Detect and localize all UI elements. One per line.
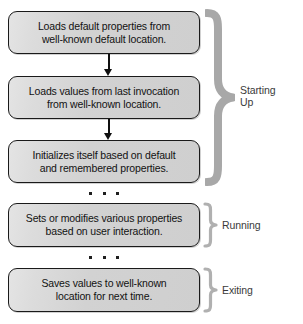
ellipsis-dot <box>103 256 106 259</box>
ellipsis-icon <box>89 254 119 260</box>
arrow-head <box>104 133 112 140</box>
arrow-down-icon <box>103 119 114 140</box>
brace-starting-up-icon <box>205 9 235 186</box>
phase-label-running: Running <box>222 219 292 231</box>
ellipsis-dot <box>103 192 106 195</box>
diagram-canvas: Loads default properties from well-known… <box>0 0 303 324</box>
brace-running-icon <box>203 201 219 249</box>
process-box-label: Initializes itself based on default and … <box>9 149 199 174</box>
process-box-label: Loads default properties from well-known… <box>9 20 199 45</box>
ellipsis-dot <box>89 256 92 259</box>
ellipsis-icon <box>89 190 119 196</box>
process-box-save-values: Saves values to well-known location for … <box>8 268 200 312</box>
arrow-down-icon <box>103 54 114 76</box>
process-box-label: Loads values from last invocation from w… <box>9 85 199 110</box>
process-box-modify-properties: Sets or modifies various properties base… <box>8 203 200 247</box>
brace-exiting-icon <box>203 266 219 314</box>
process-box-initialize: Initializes itself based on default and … <box>8 140 200 183</box>
arrow-shaft <box>108 54 110 70</box>
process-box-load-defaults: Loads default properties from well-known… <box>8 11 200 54</box>
ellipsis-dot <box>116 256 119 259</box>
arrow-shaft <box>108 119 110 134</box>
ellipsis-dot <box>116 192 119 195</box>
process-box-label: Saves values to well-known location for … <box>9 277 199 302</box>
phase-label-exiting: Exiting <box>222 284 292 296</box>
arrow-head <box>104 69 112 76</box>
process-box-load-last-invocation: Loads values from last invocation from w… <box>8 76 200 119</box>
phase-label-starting-up: Starting Up <box>240 84 300 108</box>
ellipsis-dot <box>89 192 92 195</box>
process-box-label: Sets or modifies various properties base… <box>9 212 199 237</box>
